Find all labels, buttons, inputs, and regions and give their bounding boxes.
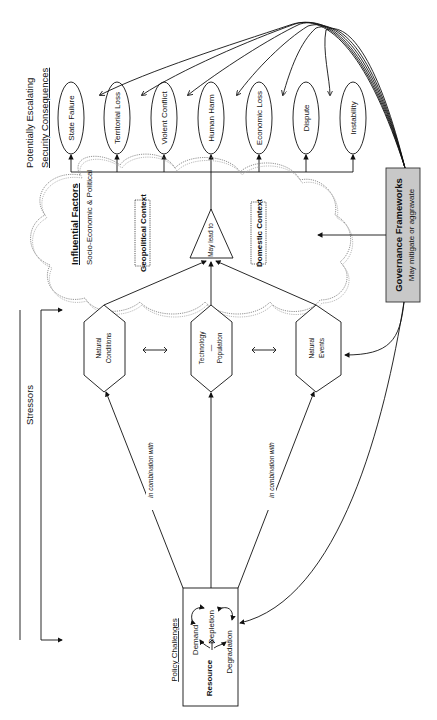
svg-text:Economic Loss: Economic Loss [255, 91, 264, 145]
consequence-violent-conflict: Violent Conflict [151, 82, 177, 154]
resource-box: Policy Challenges Resource Demand Deplet… [170, 588, 238, 706]
svg-text:Security Consequences: Security Consequences [39, 67, 50, 168]
geopolitical-context: Geopolitical Context [135, 194, 150, 272]
svg-text:Natural: Natural [95, 337, 102, 359]
governance-frameworks-box: Governance Frameworks May mitigate or ag… [240, 168, 420, 623]
consequence-dispute: Dispute [293, 82, 319, 154]
may-lead-to-triangle: May lead to [190, 209, 233, 258]
svg-text:Violent Conflict: Violent Conflict [160, 91, 169, 145]
svg-text:Dispute: Dispute [302, 104, 311, 132]
svg-text:Population: Population [216, 332, 224, 363]
svg-text:Instability: Instability [349, 101, 358, 134]
svg-text:May mitigate or aggravate: May mitigate or aggravate [407, 188, 416, 281]
svg-text:Domestic Context: Domestic Context [255, 199, 264, 267]
svg-text:Technology: Technology [198, 331, 206, 365]
natural-conditions-hexagon: Natural Conditions [84, 305, 125, 392]
svg-text:May lead to: May lead to [207, 223, 215, 257]
consequence-instability: Instability [340, 82, 366, 154]
consequences-title: Potentially Escalating Security Conseque… [24, 67, 50, 168]
svg-text:Natural: Natural [308, 337, 315, 359]
svg-text:—: — [207, 344, 214, 351]
svg-text:Conditions: Conditions [105, 332, 112, 363]
technology-population-hexagon: Technology — Population [191, 305, 232, 392]
svg-text:Influential Factors: Influential Factors [69, 183, 80, 265]
svg-text:Events: Events [318, 337, 325, 358]
svg-text:Human Harm: Human Harm [207, 94, 216, 142]
svg-text:in combination with: in combination with [147, 442, 154, 498]
consequence-territorial-loss: Territorial Loss [104, 82, 130, 154]
svg-text:Degradation: Degradation [225, 630, 234, 674]
svg-text:Depletion: Depletion [207, 610, 216, 644]
svg-text:Stressors: Stressors [24, 385, 35, 425]
natural-events-hexagon: Natural Events [296, 305, 341, 392]
svg-text:Resource: Resource [205, 659, 214, 696]
consequence-human-harm: Human Harm [198, 82, 224, 154]
svg-text:Demand: Demand [191, 625, 200, 655]
diagram-canvas: Potentially Escalating Security Conseque… [0, 0, 437, 720]
stressor-to-triangle-arrows [104, 261, 316, 305]
svg-text:State Failure: State Failure [67, 95, 76, 141]
consequence-economic-loss: Economic Loss [246, 82, 272, 154]
svg-text:Socio-Economic & Political: Socio-Economic & Political [85, 170, 94, 265]
governance-curves [100, 22, 405, 168]
influential-factors-cloud: Influential Factors Socio-Economic & Pol… [31, 154, 353, 317]
svg-text:Governance Frameworks: Governance Frameworks [393, 178, 404, 292]
svg-text:Policy Challenges: Policy Challenges [170, 618, 179, 682]
svg-text:Potentially Escalating: Potentially Escalating [24, 78, 35, 168]
svg-text:in combination with: in combination with [268, 442, 275, 498]
svg-text:Geopolitical Context: Geopolitical Context [139, 194, 148, 272]
consequence-state-failure: State Failure [58, 82, 84, 154]
svg-text:Territorial Loss: Territorial Loss [113, 92, 122, 144]
resource-to-stressor-arrows: in combination with in combination with [106, 392, 314, 588]
stressors-bracket: Stressors [20, 310, 62, 640]
domestic-context: Domestic Context [251, 199, 266, 267]
